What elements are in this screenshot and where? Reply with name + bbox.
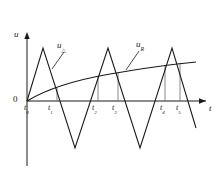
y-axis-label: u [14,30,19,39]
x-axis-label: t [209,104,212,113]
tick-subscript: 3 [114,110,116,115]
triangle-label-base: u [57,40,62,50]
tick-label-t1: t1 [48,104,53,115]
y-axis-arrow-icon [24,32,29,39]
reference-label-base: u [136,39,141,49]
tick-label-t5: t5 [176,104,181,115]
triangle-label-leader-line [52,52,64,69]
x-axis [27,98,206,104]
triangle-label-subscript: △ [62,47,66,53]
reference-label-leader-line [126,51,139,70]
tick-subscript: 4 [162,110,164,115]
tick-label-t2: t2 [92,104,97,115]
triangle-carrier-waveform [27,48,196,148]
tick-subscript: 5 [178,110,180,115]
tick-subscript: 1 [50,110,52,115]
x-axis-arrow-icon [199,98,206,104]
reference-signal-label: uR [136,40,144,51]
triangle-carrier-label: u△ [57,41,66,52]
waveform-figure: u t 0 u△ uR t0 t1 t2 t3 t4 t5 [0,0,224,176]
tick-label-t4: t4 [160,104,165,115]
waveform-plot-svg [0,0,224,176]
reference-label-subscript: R [141,46,144,52]
origin-label: 0 [13,95,18,104]
y-axis [24,32,29,166]
tick-subscript: 0 [26,110,28,115]
tick-label-t3: t3 [112,104,117,115]
tick-subscript: 2 [94,110,96,115]
tick-label-t0: t0 [24,104,29,115]
